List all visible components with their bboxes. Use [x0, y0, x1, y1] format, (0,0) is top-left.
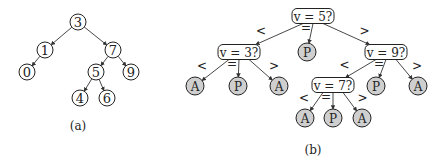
binary-search-tree: 31705946 [19, 14, 139, 106]
tree-edge [99, 79, 104, 90]
question-label: v = 7? [313, 79, 353, 93]
decision-edge [396, 60, 412, 80]
decision-tree: <=><=><=><=>v = 5?v = 3?v = 9?v = 7?PAPA… [186, 9, 427, 128]
tree-node-label: 9 [127, 65, 135, 80]
leaf-label: A [357, 112, 367, 126]
edge-label-lt: < [299, 91, 309, 105]
leaf-label: P [329, 112, 337, 126]
question-label: v = 9? [366, 46, 406, 60]
tree-node-label: 4 [76, 91, 84, 106]
tree-edge [84, 27, 107, 45]
tree-node-label: 7 [109, 43, 117, 58]
tree-node-label: 5 [92, 65, 100, 80]
leaf-label: P [303, 46, 311, 60]
decision-edge [238, 60, 239, 78]
tree-node-label: 6 [103, 91, 111, 106]
tree-diagrams: 31705946 <=><=><=><=>v = 5?v = 3?v = 9?v… [0, 0, 439, 163]
tree-edge [32, 56, 40, 66]
leaf-label: A [300, 112, 310, 126]
tree-edge [101, 56, 108, 65]
edge-label-gt: > [269, 59, 279, 73]
question-label: v = 5? [293, 10, 333, 24]
question-label: v = 3? [219, 46, 259, 60]
tree-node-label: 0 [23, 65, 31, 80]
edge-label-lt: < [256, 24, 266, 38]
leaf-label: A [190, 80, 200, 94]
decision-edge [346, 60, 376, 78]
caption-b: (b) [304, 143, 321, 157]
tree-edge [51, 27, 72, 45]
leaf-label: P [234, 80, 242, 94]
edge-label-gt: > [357, 91, 367, 105]
edge-label-gt: > [359, 24, 369, 38]
edge-label-lt: < [339, 58, 349, 72]
tree-node-label: 1 [41, 43, 49, 58]
leaf-label: P [372, 80, 380, 94]
edge-label-lt: < [197, 59, 207, 73]
tree-edge [118, 56, 126, 66]
leaf-label: A [274, 80, 284, 94]
tree-edge [84, 79, 92, 91]
caption-a: (a) [70, 119, 87, 133]
leaf-label: A [413, 80, 423, 94]
tree-node-label: 3 [74, 15, 82, 30]
edge-label-gt: > [412, 59, 422, 73]
decision-edge [343, 93, 357, 111]
